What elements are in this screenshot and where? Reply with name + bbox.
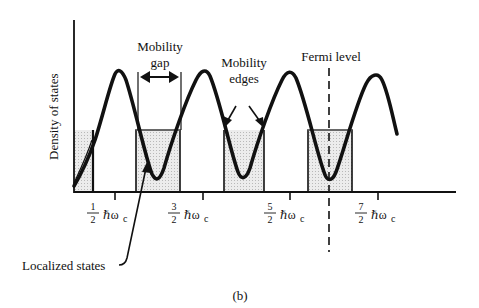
svg-text:ℏω: ℏω — [280, 208, 296, 222]
svg-text:ℏω: ℏω — [371, 208, 387, 222]
localized-state-regions — [74, 130, 352, 192]
svg-text:2: 2 — [359, 214, 364, 225]
mobility-gap-bracket — [138, 71, 181, 130]
svg-text:c: c — [391, 213, 396, 224]
figure-caption: (b) — [232, 288, 247, 303]
svg-text:5: 5 — [268, 201, 273, 212]
x-tick-label-7: 7 2 ℏω c — [355, 201, 396, 225]
y-axis-label: Density of states — [46, 73, 61, 160]
svg-text:3: 3 — [172, 201, 177, 212]
svg-text:2: 2 — [172, 214, 177, 225]
svg-text:2: 2 — [268, 214, 273, 225]
svg-text:ℏω: ℏω — [103, 208, 119, 222]
svg-text:c: c — [204, 213, 209, 224]
x-tick-label-3: 3 2 ℏω c — [168, 201, 209, 225]
axes — [74, 20, 456, 200]
x-tick-label-1: 1 2 ℏω c — [87, 201, 128, 225]
mobility-edges-label-line1: Mobility — [221, 55, 267, 70]
svg-text:c: c — [300, 213, 305, 224]
svg-text:2: 2 — [91, 214, 96, 225]
mobility-edges-label-line2: edges — [229, 71, 259, 86]
localized-states-label: Localized states — [22, 258, 105, 273]
fermi-level-label: Fermi level — [301, 49, 361, 64]
svg-text:7: 7 — [359, 201, 364, 212]
density-of-states-diagram: Density of states Mobility gap Mobility … — [0, 0, 479, 308]
svg-text:c: c — [123, 213, 128, 224]
svg-text:1: 1 — [91, 201, 96, 212]
svg-text:ℏω: ℏω — [184, 208, 200, 222]
mobility-edge-arrows — [223, 106, 264, 128]
mobility-gap-label-line2: gap — [151, 55, 170, 70]
x-tick-label-5: 5 2 ℏω c — [264, 201, 305, 225]
mobility-gap-label-line1: Mobility — [137, 39, 183, 54]
